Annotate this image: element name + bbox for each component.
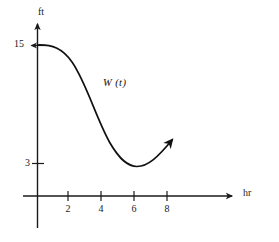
x-axis-unit-label: hr	[243, 188, 251, 198]
plot-canvas	[0, 0, 279, 242]
curve-function-label: W (t)	[103, 78, 126, 89]
function-graph-figure: ft hr 15 3 2 4 6 8 W (t)	[0, 0, 279, 242]
x-tick-label-4: 4	[96, 204, 106, 214]
x-tick-label-2: 2	[63, 204, 73, 214]
x-tick-label-8: 8	[162, 204, 172, 214]
y-axis-unit-label: ft	[38, 7, 44, 17]
y-tick-label-3: 3	[25, 158, 30, 168]
x-tick-label-6: 6	[129, 204, 139, 214]
w-of-t-curve	[38, 45, 173, 167]
y-tick-label-15: 15	[14, 39, 24, 49]
